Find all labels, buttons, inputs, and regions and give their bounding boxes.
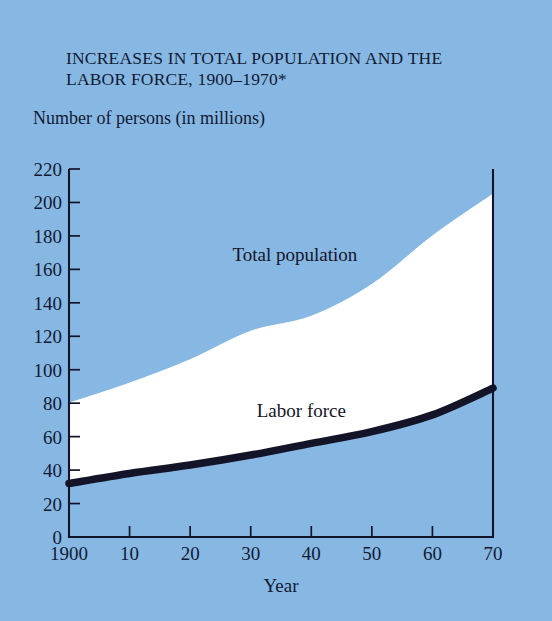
y-tick-label: 40 — [43, 460, 62, 481]
x-tick-label: 30 — [241, 543, 260, 564]
x-tick-label: 1900 — [50, 543, 88, 564]
population-band — [69, 194, 493, 483]
y-tick-label: 140 — [34, 293, 63, 314]
y-axis-tick-labels: 020406080100120140160180200220 — [34, 159, 63, 548]
x-tick-label: 20 — [181, 543, 200, 564]
y-tick-label: 100 — [34, 360, 63, 381]
x-tick-label: 10 — [120, 543, 139, 564]
x-axis-title: Year — [263, 575, 299, 596]
area-chart-svg: 020406080100120140160180200220 190010203… — [0, 0, 552, 621]
y-tick-label: 20 — [43, 494, 62, 515]
y-tick-label: 120 — [34, 326, 63, 347]
y-tick-label: 180 — [34, 226, 63, 247]
y-tick-label: 160 — [34, 259, 63, 280]
x-tick-label: 40 — [302, 543, 321, 564]
y-tick-label: 60 — [43, 427, 62, 448]
plot-area: 020406080100120140160180200220 190010203… — [0, 0, 552, 621]
y-tick-label: 80 — [43, 393, 62, 414]
x-axis-tick-labels: 190010203040506070 — [50, 543, 503, 564]
y-tick-label: 200 — [34, 192, 63, 213]
x-tick-label: 70 — [484, 543, 503, 564]
x-tick-label: 50 — [362, 543, 381, 564]
x-tick-label: 60 — [423, 543, 442, 564]
total-population-label: Total population — [233, 244, 358, 265]
y-tick-label: 220 — [34, 159, 63, 180]
chart-figure: INCREASES IN TOTAL POPULATION AND THE LA… — [0, 0, 552, 621]
labor-force-label: Labor force — [257, 400, 346, 421]
population-band-fill — [69, 194, 493, 483]
